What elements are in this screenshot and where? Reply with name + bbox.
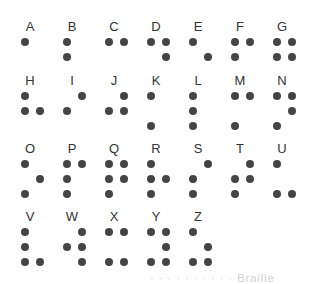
letter-label: C — [99, 20, 129, 34]
braille-cell-l: L — [186, 74, 226, 140]
letter-label: X — [99, 210, 129, 224]
braille-dot-5 — [162, 53, 170, 61]
braille-dot-2 — [63, 175, 71, 183]
letter-label: B — [57, 20, 87, 34]
braille-dot-1 — [147, 92, 155, 100]
braille-dot-5 — [120, 175, 128, 183]
braille-dot-2 — [105, 107, 113, 115]
braille-dot-1 — [189, 228, 197, 236]
braille-dot-4 — [246, 92, 254, 100]
braille-dot-3 — [21, 190, 29, 198]
braille-dot-1 — [21, 228, 29, 236]
braille-dot-5 — [246, 175, 254, 183]
braille-cell-m: M — [228, 74, 268, 140]
braille-dot-4 — [78, 160, 86, 168]
braille-dot-4 — [78, 92, 86, 100]
braille-dot-6 — [120, 258, 128, 266]
braille-cell-n: N — [270, 74, 310, 140]
braille-dot-4 — [288, 92, 296, 100]
letter-label: V — [15, 210, 45, 224]
braille-dot-3 — [189, 122, 197, 130]
braille-dot-5 — [162, 243, 170, 251]
braille-dot-1 — [21, 160, 29, 168]
letter-label: R — [141, 142, 171, 156]
braille-dot-5 — [288, 107, 296, 115]
braille-cell-p: P — [60, 142, 100, 208]
braille-cell-q: Q — [102, 142, 142, 208]
braille-cell-u: U — [270, 142, 310, 208]
braille-dot-3 — [231, 122, 239, 130]
braille-dot-5 — [204, 53, 212, 61]
braille-dot-1 — [105, 160, 113, 168]
braille-dot-2 — [189, 175, 197, 183]
braille-dot-6 — [288, 190, 296, 198]
braille-cell-h: H — [18, 74, 58, 140]
braille-cell-z: Z — [186, 210, 226, 276]
braille-cell-o: O — [18, 142, 58, 208]
letter-label: W — [57, 210, 87, 224]
braille-dot-1 — [189, 38, 197, 46]
braille-dot-4 — [204, 160, 212, 168]
letter-label: A — [15, 20, 45, 34]
braille-cell-k: K — [144, 74, 184, 140]
braille-dot-2 — [273, 53, 281, 61]
braille-dot-4 — [288, 38, 296, 46]
braille-dot-2 — [105, 175, 113, 183]
letter-label: O — [15, 142, 45, 156]
braille-dot-3 — [63, 190, 71, 198]
braille-dot-2 — [147, 175, 155, 183]
braille-dot-3 — [147, 258, 155, 266]
letter-label: D — [141, 20, 171, 34]
braille-dot-5 — [204, 243, 212, 251]
braille-dot-5 — [36, 107, 44, 115]
letter-label: U — [267, 142, 297, 156]
braille-dot-3 — [189, 190, 197, 198]
braille-dot-5 — [162, 175, 170, 183]
braille-dot-1 — [21, 38, 29, 46]
letter-label: N — [267, 74, 297, 88]
letter-label: Y — [141, 210, 171, 224]
letter-label: J — [99, 74, 129, 88]
letter-label: S — [183, 142, 213, 156]
braille-dot-4 — [120, 160, 128, 168]
braille-dot-3 — [189, 258, 197, 266]
braille-dot-2 — [231, 53, 239, 61]
letter-label: G — [267, 20, 297, 34]
braille-cell-v: V — [18, 210, 58, 276]
letter-label: K — [141, 74, 171, 88]
letter-label: Q — [99, 142, 129, 156]
letter-label: F — [225, 20, 255, 34]
braille-cell-s: S — [186, 142, 226, 208]
braille-dot-1 — [63, 38, 71, 46]
braille-dot-5 — [36, 175, 44, 183]
letter-label: Z — [183, 210, 213, 224]
braille-dot-4 — [162, 38, 170, 46]
braille-dot-2 — [231, 175, 239, 183]
braille-cell-t: T — [228, 142, 268, 208]
letter-label: M — [225, 74, 255, 88]
caption-partial: · · · · · · · · · · Braille — [150, 272, 275, 284]
braille-dot-1 — [21, 92, 29, 100]
braille-dot-2 — [63, 243, 71, 251]
braille-dot-6 — [162, 258, 170, 266]
braille-cell-x: X — [102, 210, 142, 276]
braille-dot-5 — [120, 107, 128, 115]
braille-dot-4 — [162, 228, 170, 236]
braille-dot-4 — [246, 160, 254, 168]
braille-dot-3 — [105, 190, 113, 198]
letter-label: H — [15, 74, 45, 88]
braille-dot-1 — [273, 160, 281, 168]
braille-dot-1 — [147, 38, 155, 46]
braille-dot-4 — [120, 92, 128, 100]
braille-dot-6 — [78, 258, 86, 266]
braille-dot-3 — [147, 122, 155, 130]
braille-dot-5 — [288, 53, 296, 61]
braille-dot-3 — [21, 258, 29, 266]
braille-dot-2 — [189, 107, 197, 115]
braille-dot-3 — [273, 122, 281, 130]
braille-dot-4 — [246, 38, 254, 46]
braille-dot-1 — [105, 38, 113, 46]
braille-dot-4 — [120, 228, 128, 236]
braille-dot-1 — [231, 38, 239, 46]
braille-dot-3 — [147, 190, 155, 198]
